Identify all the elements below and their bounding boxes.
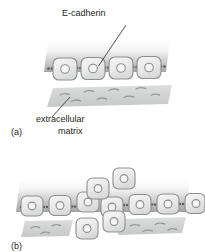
- cell-nucleus: [120, 175, 128, 183]
- label-matrix: matrix: [58, 126, 83, 136]
- detached-cell: [87, 178, 109, 199]
- figure-svg: [0, 0, 205, 252]
- cell-nucleus: [61, 65, 70, 74]
- epithelial-cell: [185, 194, 205, 214]
- cell-nucleus: [56, 202, 64, 210]
- epithelial-cell: [53, 58, 77, 80]
- detached-cell: [113, 168, 135, 189]
- cell-nucleus: [145, 63, 154, 72]
- cell-nucleus: [108, 203, 116, 211]
- epithelial-cell: [49, 196, 71, 216]
- cell-nucleus: [28, 202, 36, 210]
- epithelial-cell: [21, 196, 43, 216]
- extracellular-matrix-a: [47, 85, 172, 107]
- cell-nucleus: [192, 200, 200, 208]
- epithelial-cell: [157, 194, 179, 214]
- epithelial-cell: [109, 57, 133, 79]
- label-extracellular: extracellular: [36, 114, 85, 124]
- cell-nucleus: [117, 64, 126, 73]
- detached-cell: [76, 218, 98, 239]
- cell-nucleus: [94, 185, 102, 193]
- panel-b-group: [16, 168, 205, 239]
- figure-container: E-cadherin extracellular matrix (a) (b): [0, 0, 205, 252]
- panel-label-a: (a): [11, 127, 22, 137]
- epithelial-cell: [129, 195, 151, 215]
- epithelial-cell: [81, 58, 105, 80]
- epithelial-cell: [137, 57, 161, 79]
- cell-nucleus: [83, 225, 91, 233]
- cell-nucleus: [110, 218, 118, 226]
- label-ecadherin: E-cadherin: [62, 8, 106, 18]
- cell-nucleus: [89, 64, 98, 73]
- cell-nucleus: [136, 201, 144, 209]
- detached-cell: [103, 211, 125, 232]
- panel-label-b: (b): [11, 241, 22, 251]
- cell-nucleus: [164, 200, 172, 208]
- panel-a-group: [44, 25, 172, 117]
